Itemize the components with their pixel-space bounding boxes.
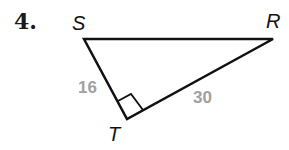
- vertex-label-s: S: [72, 12, 85, 35]
- triangle-srt: [84, 39, 273, 119]
- side-length-tr: 30: [193, 88, 212, 108]
- triangle-figure: [0, 0, 289, 150]
- vertex-label-t: T: [108, 123, 120, 146]
- triangle-diagram: 4. S R T 16 30: [0, 0, 289, 150]
- vertex-label-r: R: [266, 10, 280, 33]
- side-length-st: 16: [78, 78, 97, 98]
